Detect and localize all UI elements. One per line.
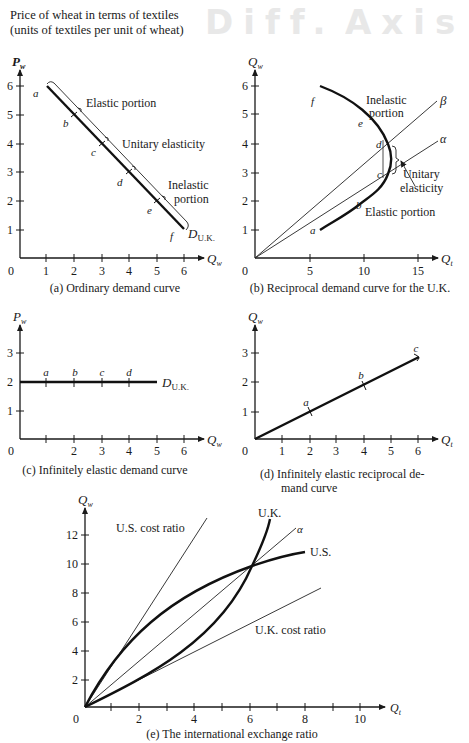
d-xtick: 4 (361, 444, 367, 458)
b-xtick: 15 (412, 264, 424, 278)
a-xtick: 0 (8, 264, 14, 278)
e-xlabel: Qt (390, 701, 402, 717)
a-ytick: 6 (7, 79, 13, 93)
panel-b: 6 5 4 3 2 1 0 5 10 15 Qw Qt β α a b c d (242, 54, 453, 295)
a-ytick: 2 (7, 194, 13, 208)
b-inelastic-label: Inelastic (366, 93, 407, 107)
b-unitary-label: Unitary (403, 167, 440, 181)
b-inelastic-label-2: portion (369, 106, 404, 120)
e-ytick: 10 (66, 557, 78, 571)
a-xtick: 3 (99, 264, 105, 278)
b-point-b: b (356, 199, 362, 211)
b-unitary-label-2: elasticity (400, 181, 443, 195)
b-elastic-label: Elastic portion (365, 205, 435, 219)
b-xtick: 0 (242, 264, 248, 278)
d-point-a: a (303, 396, 309, 408)
d-xtick: 3 (333, 444, 339, 458)
a-unitary-label: Unitary elasticity (122, 137, 205, 151)
a-ytick: 5 (7, 108, 13, 122)
e-uk-cost-label: U.K. cost ratio (255, 623, 326, 637)
a-point-a: a (33, 87, 39, 99)
b-ytick: 6 (242, 79, 248, 93)
c-point-b: b (72, 366, 78, 378)
d-ytick: 3 (242, 346, 248, 360)
d-xtick: 2 (307, 444, 313, 458)
a-xtick: 2 (71, 264, 77, 278)
d-xtick: 0 (242, 444, 248, 458)
b-point-d: d (376, 138, 382, 150)
e-us-cost-ratio-line (85, 518, 207, 707)
e-us-cost-label: U.S. cost ratio (116, 521, 185, 535)
c-ytick: 1 (7, 404, 13, 418)
d-reciprocal-line (255, 357, 419, 439)
b-caption: (b) Reciprocal demand curve for the U.K. (250, 281, 451, 295)
e-caption: (e) The international exchange ratio (146, 727, 318, 741)
panel-c: 3 2 1 0 2 3 4 5 6 Pw Qw a b c d DU.K. (c… (7, 309, 222, 477)
e-xtick: 8 (302, 712, 308, 726)
d-ytick: 1 (242, 405, 248, 419)
c-xlabel: Qw (207, 432, 222, 449)
a-ytick: 3 (7, 165, 13, 179)
figure: 6 5 4 3 2 1 0 1 2 3 4 5 6 Pw Qw a b (0, 0, 469, 743)
a-ytick: 1 (7, 223, 13, 237)
e-ytick: 6 (72, 615, 78, 629)
e-ylabel: Qw (78, 492, 93, 509)
b-xlabel: Qt (441, 251, 453, 268)
panel-e: 12 10 8 6 4 2 0 2 4 6 8 10 Qw Qt U.S. co… (66, 492, 402, 741)
a-point-f: f (170, 230, 175, 242)
b-point-a: a (310, 224, 316, 236)
c-xtick: 5 (154, 444, 160, 458)
b-alpha-label: α (440, 132, 447, 146)
c-point-c: c (100, 366, 105, 378)
panel-d: 3 2 1 0 1 2 3 4 5 6 Qw Qt a b c (d) Infi… (242, 309, 453, 495)
a-xtick: 1 (43, 264, 49, 278)
e-ytick: 2 (72, 673, 78, 687)
b-ytick: 4 (242, 137, 248, 151)
c-xtick: 0 (8, 444, 14, 458)
panel-a: 6 5 4 3 2 1 0 1 2 3 4 5 6 Pw Qw a b (7, 54, 222, 295)
c-ylabel: Pw (12, 309, 27, 326)
b-alpha-ray (255, 141, 438, 258)
a-caption: (a) Ordinary demand curve (50, 281, 180, 295)
d-ytick: 2 (242, 375, 248, 389)
d-xtick: 6 (415, 444, 421, 458)
b-point-f: f (311, 95, 316, 107)
c-xtick: 6 (181, 444, 187, 458)
d-caption-2: mand curve (281, 481, 337, 495)
a-xtick: 6 (181, 264, 187, 278)
d-xlabel: Qt (441, 432, 453, 449)
d-xtick: 5 (388, 444, 394, 458)
c-ytick: 3 (7, 346, 13, 360)
a-point-c: c (91, 146, 96, 158)
c-xtick: 4 (126, 444, 132, 458)
c-xtick: 2 (71, 444, 77, 458)
a-point-e: e (147, 204, 152, 216)
e-uk-label: U.K. (258, 506, 281, 520)
a-curve-label: DU.K. (187, 226, 215, 243)
d-point-b: b (358, 369, 364, 381)
a-ylabel: Pw (12, 54, 26, 71)
b-xtick: 10 (358, 264, 370, 278)
a-inelastic-label: Inelastic (168, 178, 209, 192)
b-point-e: e (358, 117, 363, 129)
c-point-a: a (43, 366, 49, 378)
e-uk-offer-curve (85, 519, 270, 707)
b-ytick: 2 (242, 194, 248, 208)
e-alpha-ray (85, 528, 296, 707)
d-xtick: 1 (279, 444, 285, 458)
a-elastic-label: Elastic portion (86, 96, 156, 110)
d-ylabel: Qw (248, 309, 263, 326)
c-ytick: 2 (7, 375, 13, 389)
c-caption: (c) Infinitely elastic demand curve (22, 463, 187, 477)
a-xlabel: Qw (207, 251, 222, 268)
a-xtick: 5 (154, 264, 160, 278)
c-point-d: d (126, 366, 132, 378)
e-alpha-label: α (297, 523, 303, 535)
a-inelastic-label-2: portion (174, 192, 209, 206)
a-xtick: 4 (126, 264, 132, 278)
b-beta-label: β (439, 93, 447, 108)
e-xtick: 6 (247, 712, 253, 726)
e-xtick: 2 (136, 712, 142, 726)
b-xtick: 5 (307, 264, 313, 278)
e-ytick: 12 (66, 528, 78, 542)
